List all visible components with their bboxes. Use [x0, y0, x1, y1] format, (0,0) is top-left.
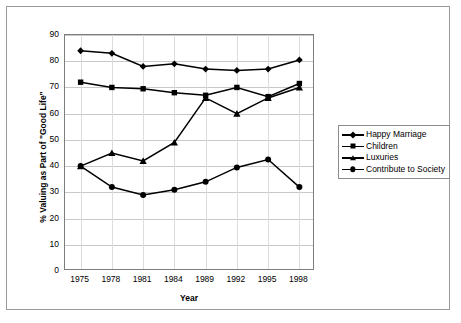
data-point	[296, 184, 302, 190]
series-happy-marriage	[77, 47, 303, 73]
data-point	[140, 192, 146, 198]
chart-frame: % Valuing as Part of "Good Life" 0102030…	[6, 6, 450, 310]
series-contribute-to-society	[78, 157, 303, 198]
y-tick-label: 0	[29, 266, 59, 275]
series-luxuries	[77, 84, 303, 169]
data-point	[171, 60, 178, 67]
data-point	[109, 85, 114, 90]
data-point	[233, 110, 240, 117]
data-point	[171, 187, 177, 193]
data-point	[265, 157, 271, 163]
legend-item[interactable]: Happy Marriage	[341, 129, 446, 141]
data-point	[265, 66, 272, 73]
x-axis-tick-labels: 19751978198119841989199219951998	[7, 275, 461, 289]
data-point	[202, 66, 209, 73]
y-tick-label: 90	[29, 30, 59, 39]
data-point	[233, 67, 240, 74]
data-point	[140, 63, 147, 70]
triangle-marker-icon	[341, 152, 365, 163]
x-tick-label: 1998	[278, 275, 318, 284]
plot-area	[64, 34, 314, 270]
data-point	[78, 163, 84, 169]
data-point	[77, 47, 84, 54]
data-point	[234, 164, 240, 170]
y-tick-label: 50	[29, 135, 59, 144]
data-point	[234, 85, 239, 90]
square-marker-icon	[341, 141, 365, 152]
diamond-marker-icon	[341, 129, 365, 140]
data-point	[140, 86, 145, 91]
y-tick-label: 40	[29, 161, 59, 170]
data-point	[203, 179, 209, 185]
legend-item-label: Contribute to Society	[365, 165, 445, 174]
chart-legend: Happy MarriageChildrenLuxuriesContribute…	[338, 125, 450, 179]
y-tick-label: 80	[29, 56, 59, 65]
data-point	[296, 57, 303, 64]
y-tick-label: 60	[29, 109, 59, 118]
data-point	[109, 184, 115, 190]
y-tick-label: 10	[29, 240, 59, 249]
data-series-layer	[65, 35, 315, 271]
y-tick-label: 30	[29, 187, 59, 196]
data-point	[78, 80, 83, 85]
circle-marker-icon	[341, 164, 365, 175]
data-point	[108, 50, 115, 57]
legend-item-label: Children	[365, 142, 398, 151]
legend-item-label: Luxuries	[365, 153, 398, 162]
legend-item[interactable]: Contribute to Society	[341, 164, 446, 176]
y-tick-label: 70	[29, 82, 59, 91]
data-point	[108, 149, 115, 156]
y-tick-label: 20	[29, 214, 59, 223]
data-point	[172, 90, 177, 95]
x-axis-title: Year	[64, 293, 314, 303]
legend-item-label: Happy Marriage	[365, 130, 426, 139]
legend-item[interactable]: Children	[341, 141, 446, 153]
legend-item[interactable]: Luxuries	[341, 152, 446, 164]
